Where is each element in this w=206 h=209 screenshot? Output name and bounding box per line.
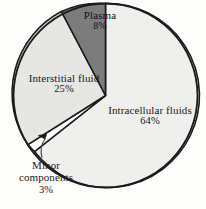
slice-value-interstitial-fluid: 25%	[18, 84, 110, 95]
slice-value-intracellular-fluids: 64%	[98, 116, 202, 127]
slice-label-plasma-text: Plasma	[84, 9, 116, 21]
slice-label-minor-components-line2: components	[19, 171, 73, 183]
slice-label-plasma: Plasma 8%	[70, 10, 130, 32]
slice-value-minor-components: 3%	[2, 184, 90, 195]
slice-label-intracellular-fluids: Intracellular fluids 64%	[98, 105, 202, 127]
slice-value-plasma: 8%	[70, 21, 130, 31]
slice-label-interstitial-fluid-text: Interstitial fluid	[29, 72, 100, 84]
pie-chart-figure: Plasma 8% Interstitial fluid 25% Intrace…	[0, 0, 206, 209]
slice-label-minor-components-line1: Minor	[32, 159, 60, 171]
slice-label-minor-components: Minor components 3%	[2, 160, 90, 195]
slice-label-intracellular-fluids-text: Intracellular fluids	[108, 104, 192, 116]
slice-label-interstitial-fluid: Interstitial fluid 25%	[18, 73, 110, 95]
